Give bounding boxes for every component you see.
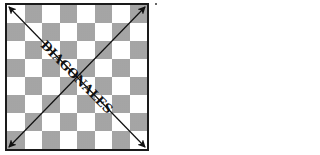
corner-mark xyxy=(155,3,157,5)
